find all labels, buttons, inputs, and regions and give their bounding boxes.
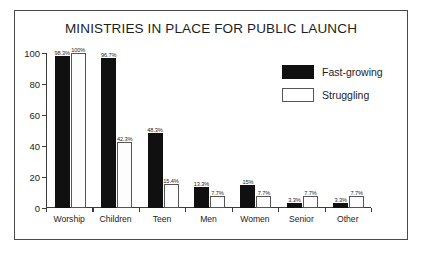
bar[interactable]: 7.7% (256, 196, 271, 208)
bar-value-label: 100% (71, 47, 85, 53)
bar-value-label: 13.3% (194, 181, 209, 187)
x-axis-tick (278, 208, 279, 212)
y-axis-label: 100 (24, 48, 40, 59)
chart-legend: Fast-growingStruggling (282, 64, 394, 110)
legend-label: Fast-growing (322, 66, 383, 78)
x-axis-tick (92, 208, 93, 212)
legend-item[interactable]: Fast-growing (282, 64, 394, 79)
y-axis-label: 60 (29, 110, 40, 121)
bar-group: 13.3%7.7%Men (185, 53, 231, 208)
bar-group: 96.7%42.3%Children (92, 53, 138, 208)
bar-value-label: 3.3% (288, 197, 300, 203)
x-axis-tick (325, 208, 326, 212)
bar[interactable]: 7.7% (210, 196, 225, 208)
bar-value-label: 42.3% (117, 136, 132, 142)
bar[interactable]: 15.4% (164, 184, 179, 208)
legend-item[interactable]: Struggling (282, 87, 394, 102)
bar-value-label: 15% (242, 179, 253, 185)
x-axis-tick (232, 208, 233, 212)
bar[interactable]: 42.3% (117, 142, 132, 208)
bar[interactable]: 48.3% (148, 133, 163, 208)
x-axis-category-label: Other (337, 214, 359, 224)
bar[interactable]: 100% (71, 53, 86, 208)
bar-value-label: 7.7% (304, 190, 316, 196)
x-axis-category-label: Teen (153, 214, 172, 224)
bar[interactable]: 15% (240, 185, 255, 208)
bar-value-label: 7.7% (211, 190, 223, 196)
bar-group: 98.3%100%Worship (46, 53, 92, 208)
bar-value-label: 7.7% (351, 190, 363, 196)
bar[interactable]: 98.3% (55, 56, 70, 208)
legend-swatch-icon (282, 65, 314, 79)
legend-label: Struggling (322, 89, 369, 101)
x-axis-tick (139, 208, 140, 212)
y-axis-label: 0 (35, 203, 40, 214)
bar[interactable]: 3.3% (333, 203, 348, 208)
bar-group: 15%7.7%Women (232, 53, 278, 208)
bar[interactable]: 96.7% (101, 58, 116, 208)
x-axis-tick (185, 208, 186, 212)
chart-title: MINISTRIES IN PLACE FOR PUBLIC LAUNCH (15, 21, 407, 36)
bar-value-label: 96.7% (101, 52, 116, 58)
bar[interactable]: 3.3% (287, 203, 302, 208)
legend-swatch-icon (282, 88, 314, 102)
bar[interactable]: 7.7% (349, 196, 364, 208)
bar-group: 48.3%15.4%Teen (139, 53, 185, 208)
chart-frame: MINISTRIES IN PLACE FOR PUBLIC LAUNCH 02… (14, 10, 408, 240)
x-axis-category-label: Senior (289, 214, 314, 224)
y-axis-label: 20 (29, 172, 40, 183)
x-axis-category-label: Children (100, 214, 132, 224)
bar[interactable]: 13.3% (194, 187, 209, 208)
bar[interactable]: 7.7% (303, 196, 318, 208)
x-axis-tick (371, 208, 372, 212)
bar-value-label: 15.4% (163, 178, 178, 184)
bar-value-label: 3.3% (335, 197, 347, 203)
x-axis-category-label: Worship (54, 214, 85, 224)
y-axis-label: 80 (29, 79, 40, 90)
bar-value-label: 48.3% (147, 127, 162, 133)
x-axis-category-label: Men (200, 214, 217, 224)
bar-value-label: 98.3% (55, 50, 70, 56)
bar-value-label: 7.7% (258, 190, 270, 196)
x-axis-tick (46, 208, 47, 212)
x-axis-category-label: Women (240, 214, 269, 224)
y-axis-label: 40 (29, 141, 40, 152)
